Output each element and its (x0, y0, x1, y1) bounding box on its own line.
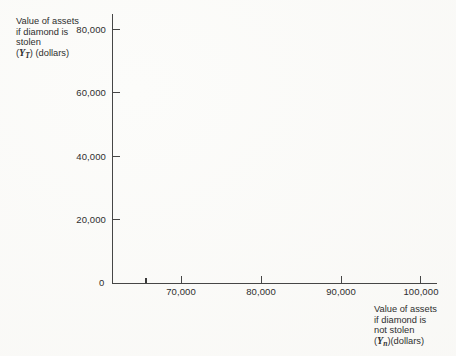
x-tick-mark-100000 (420, 276, 421, 283)
y-axis-caption-line1: Value of assets (16, 16, 79, 27)
x-tick-mark-90000 (341, 276, 342, 283)
y-tick-label-0: 0 (99, 277, 104, 288)
figure-page: 0 80,000 60,000 40,000 20,000 70,000 80,… (0, 0, 456, 356)
x-axis-line (112, 283, 437, 284)
y-axis-caption-line2: if diamond is (16, 27, 79, 38)
x-axis-caption-symbol: (Yn)(dollars) (374, 336, 437, 350)
x-axis-caption-line3: not stolen (374, 325, 437, 336)
y-tick-mark-60000 (113, 92, 120, 93)
x-tick-label-100000: 100,000 (403, 286, 438, 297)
y-tick-mark-80000 (113, 29, 120, 30)
x-symbol-units: (dollars) (391, 336, 425, 346)
y-tick-mark-20000 (113, 219, 120, 220)
x-axis-caption-line2: if diamond is (374, 315, 437, 326)
x-axis-caption: Value of assets if diamond is not stolen… (374, 304, 437, 349)
x-tick-label-70000: 70,000 (166, 286, 196, 297)
x-tick-mark-minor (145, 278, 147, 283)
graph-canvas: 0 80,000 60,000 40,000 20,000 70,000 80,… (0, 0, 456, 356)
y-axis-line (112, 14, 113, 283)
x-tick-label-90000: 90,000 (326, 286, 356, 297)
x-axis-caption-line1: Value of assets (374, 304, 437, 315)
y-symbol-units: (dollars) (33, 48, 69, 58)
y-axis-caption-line3: stolen (16, 37, 79, 48)
y-tick-label-40000: 40,000 (6, 151, 106, 162)
x-tick-mark-70000 (181, 276, 182, 283)
y-tick-label-60000: 60,000 (6, 87, 106, 98)
y-axis-caption: Value of assets if diamond is stolen (YT… (16, 16, 79, 61)
x-tick-label-80000: 80,000 (246, 286, 276, 297)
y-axis-caption-symbol: (YT) (dollars) (16, 48, 79, 62)
x-tick-mark-80000 (261, 276, 262, 283)
y-tick-mark-40000 (113, 156, 120, 157)
y-tick-label-20000: 20,000 (6, 214, 106, 225)
